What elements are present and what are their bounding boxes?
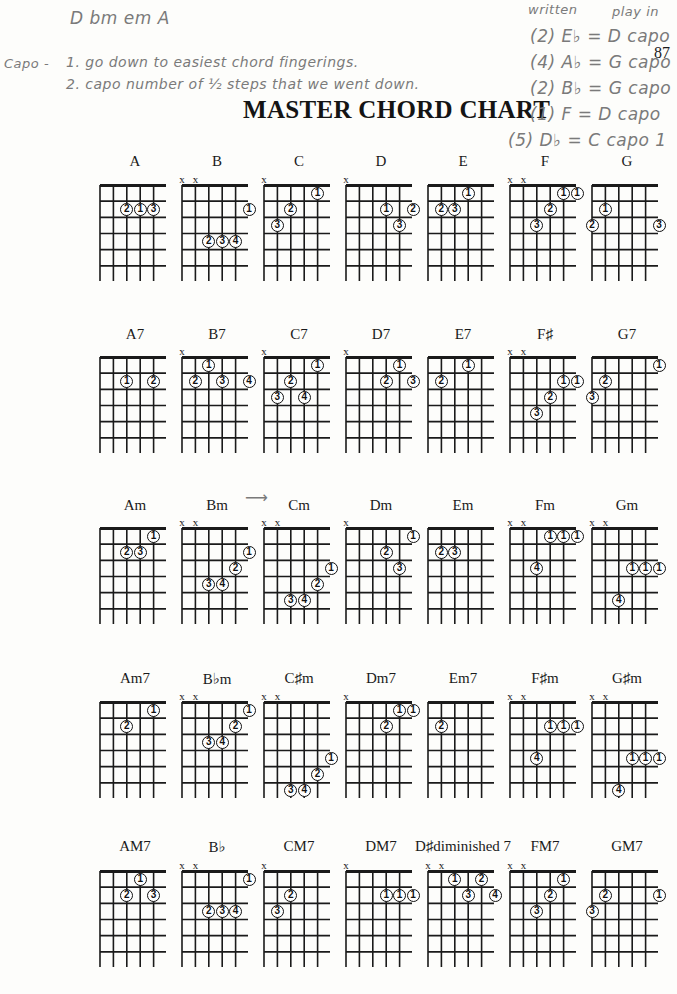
finger-dot: 1 (325, 562, 338, 575)
finger-dot: 1 (311, 187, 324, 200)
fretboard-grid (345, 527, 412, 624)
finger-dot: 1 (393, 359, 406, 372)
finger-dot: 2 (435, 375, 448, 388)
muted-string-marker: x (178, 690, 186, 702)
muted-string-marker: x (191, 690, 199, 702)
handwritten-header-play: play in (612, 4, 659, 19)
finger-dot: 4 (216, 736, 229, 749)
finger-dot: 2 (284, 203, 297, 216)
handwritten-step-2: 2. capo number of ½ steps that we went d… (66, 76, 420, 92)
fretboard-grid (345, 184, 412, 281)
fretboard-grid (591, 527, 658, 624)
finger-dot: 3 (448, 546, 461, 559)
muted-string-marker: x (519, 859, 527, 871)
transposition-entry: (4) A♭ = G capo (530, 52, 671, 72)
muted-string-marker: x (191, 516, 199, 528)
fretboard-grid (427, 527, 494, 624)
finger-dot: 3 (393, 219, 406, 232)
finger-dot: 3 (448, 203, 461, 216)
fretboard-grid (509, 356, 576, 453)
chord-name: G (572, 153, 677, 170)
finger-dot: 3 (653, 219, 666, 232)
muted-string-marker: x (178, 345, 186, 357)
finger-dot: 3 (586, 391, 599, 404)
finger-dot: 1 (325, 752, 338, 765)
finger-dot: 3 (134, 546, 147, 559)
muted-string-marker: x (260, 173, 268, 185)
fretboard-grid (591, 184, 658, 281)
finger-dot: 4 (298, 391, 311, 404)
muted-string-marker: x (342, 516, 350, 528)
muted-string-marker: x (273, 516, 281, 528)
finger-dot: 2 (189, 375, 202, 388)
finger-dot: 3 (271, 391, 284, 404)
finger-dot: 2 (435, 203, 448, 216)
finger-dot: 1 (557, 530, 570, 543)
finger-dot: 2 (120, 720, 133, 733)
muted-string-marker: x (178, 516, 186, 528)
finger-dot: 1 (311, 359, 324, 372)
muted-string-marker: x (273, 690, 281, 702)
handwritten-chord-list: D bm em A (70, 8, 170, 28)
finger-dot: 1 (380, 889, 393, 902)
finger-dot: 1 (626, 562, 639, 575)
finger-dot: 2 (284, 375, 297, 388)
finger-dot: 2 (475, 873, 488, 886)
fretboard-grid (263, 701, 330, 798)
fretboard-grid (591, 870, 658, 967)
finger-dot: 3 (586, 905, 599, 918)
finger-dot: 3 (216, 235, 229, 248)
muted-string-marker: x (178, 859, 186, 871)
finger-dot: 4 (216, 578, 229, 591)
finger-dot: 2 (544, 391, 557, 404)
finger-dot: 2 (380, 546, 393, 559)
finger-dot: 1 (571, 375, 584, 388)
chord-name: GM7 (572, 838, 677, 855)
muted-string-marker: x (342, 690, 350, 702)
finger-dot: 2 (147, 375, 160, 388)
finger-dot: 3 (393, 562, 406, 575)
page-title: MASTER CHORD CHART (243, 96, 550, 124)
fretboard-grid (99, 870, 166, 967)
transposition-entry: (2) E♭ = D capo (530, 26, 670, 46)
fretboard-grid (181, 870, 248, 967)
fretboard-grid (181, 356, 248, 453)
muted-string-marker: x (588, 690, 596, 702)
finger-dot: 1 (380, 203, 393, 216)
handwritten-capo-label: Capo - (4, 56, 49, 71)
finger-dot: 1 (243, 203, 256, 216)
muted-string-marker: x (506, 345, 514, 357)
finger-dot: 4 (243, 375, 256, 388)
fretboard-grid (263, 527, 330, 624)
finger-dot: 1 (407, 704, 420, 717)
fretboard-grid (99, 356, 166, 453)
muted-string-marker: x (260, 690, 268, 702)
muted-string-marker: x (178, 173, 186, 185)
finger-dot: 1 (120, 375, 133, 388)
muted-string-marker: x (601, 516, 609, 528)
finger-dot: 1 (571, 187, 584, 200)
finger-dot: 1 (557, 187, 570, 200)
finger-dot: 3 (216, 905, 229, 918)
finger-dot: 1 (393, 889, 406, 902)
muted-string-marker: x (424, 859, 432, 871)
finger-dot: 4 (229, 905, 242, 918)
finger-dot: 1 (639, 562, 652, 575)
finger-dot: 2 (435, 720, 448, 733)
muted-string-marker: x (342, 345, 350, 357)
transposition-entry: (1) F = D capo (530, 104, 661, 124)
finger-dot: 2 (229, 562, 242, 575)
finger-dot: 1 (653, 359, 666, 372)
finger-dot: 1 (653, 889, 666, 902)
finger-dot: 1 (626, 752, 639, 765)
finger-dot: 3 (407, 375, 420, 388)
finger-dot: 3 (271, 219, 284, 232)
muted-string-marker: x (506, 173, 514, 185)
finger-dot: 1 (557, 720, 570, 733)
fretboard-grid (99, 184, 166, 281)
finger-dot: 1 (407, 530, 420, 543)
fretboard-grid (591, 701, 658, 798)
handwritten-step-1: 1. go down to easiest chord fingerings. (66, 54, 359, 70)
finger-dot: 2 (380, 720, 393, 733)
fretboard-grid (427, 356, 494, 453)
